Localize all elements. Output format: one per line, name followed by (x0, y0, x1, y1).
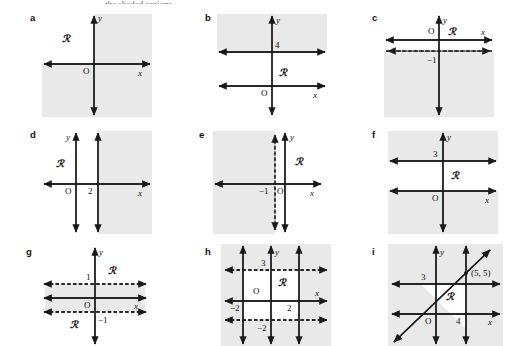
panel-c-stage: y x O −1 ℛ (384, 14, 494, 117)
panel-a-stage: y x O ℛ (42, 14, 152, 117)
panel-i-y-label: y (440, 248, 444, 257)
panel-f-y-label: y (447, 133, 451, 142)
panel-e-stage: y x O −1 ℛ (213, 131, 323, 234)
panel-a-letter: a (30, 12, 35, 23)
panel-f-stage: y x O 3 ℛ (388, 131, 498, 234)
page-root: { "page": { "clipped_header": "the shade… (0, 0, 525, 346)
panel-d-axes (42, 131, 152, 234)
panel-f-origin-label: O (432, 194, 439, 203)
panel-c-y-label: y (443, 16, 447, 25)
panel-c-x-label: x (481, 28, 485, 37)
panel-g-origin-label: O (84, 301, 91, 310)
panel-h-letter: h (205, 246, 211, 257)
panel-f-axes (388, 131, 498, 234)
panel-d: d y x O 2 ℛ (0, 121, 175, 236)
panel-d-x-label: x (138, 189, 142, 198)
panel-i-stage: y x O 3 4 (5, 5) ℛ (388, 244, 503, 346)
panel-f-letter: f (372, 129, 375, 140)
panel-h-tick-neg2-x: −2 (230, 304, 240, 313)
panel-g-axes (40, 246, 150, 346)
panel-g-letter: g (26, 246, 32, 257)
panel-g-stage: y x O 1 −1 ℛ ℛ (40, 246, 150, 346)
panel-a-origin-label: O (83, 67, 90, 76)
panel-c-origin-label: O (428, 27, 435, 36)
panel-e: e y x O −1 ℛ (175, 121, 350, 236)
panel-g-y-label: y (99, 248, 103, 257)
panel-g: g y x O 1 −1 ℛ ℛ (0, 236, 175, 346)
panel-c-letter: c (372, 12, 377, 23)
panel-a-x-label: x (138, 69, 142, 78)
panel-h-stage: y x O 3 −2 2 −2 ℛ (221, 244, 331, 346)
panel-d-y-label: y (66, 133, 70, 142)
panel-a: a y x O ℛ (0, 6, 175, 121)
panel-b-stage: y x O 4 ℛ (217, 14, 327, 117)
panel-a-axes (42, 14, 152, 117)
panel-e-x-label: x (310, 189, 314, 198)
panel-b-origin-label: O (261, 89, 268, 98)
clipped-header-text: the shaded regions. (105, 0, 345, 4)
panel-i-tick-4: 4 (456, 317, 461, 326)
panel-h-tick-2: 2 (287, 304, 292, 313)
panel-d-origin-label: O (65, 187, 72, 196)
panel-c-axes (384, 14, 494, 117)
panel-i-x-label: x (488, 318, 492, 327)
panel-c: c y x O −1 ℛ (350, 6, 525, 121)
panel-c-region-label: ℛ (448, 27, 456, 37)
panel-e-y-label: y (290, 133, 294, 142)
panel-h-origin-label: O (253, 287, 260, 296)
panel-e-letter: e (199, 129, 204, 140)
panel-f-tick-3: 3 (433, 150, 438, 159)
panel-i-letter: i (372, 246, 375, 257)
panel-i-tick-3: 3 (421, 273, 426, 282)
panel-f: f y x O 3 ℛ (350, 121, 525, 236)
panel-i: i y x O 3 4 (5, (350, 236, 525, 346)
panel-f-region-label: ℛ (451, 171, 459, 181)
panel-b-letter: b (205, 12, 211, 23)
panel-i-region-label: ℛ (446, 292, 454, 302)
panel-d-stage: y x O 2 ℛ (42, 131, 152, 234)
panel-h: h y x O 3 −2 2 −2 (175, 236, 350, 346)
panel-h-x-label: x (315, 289, 319, 298)
panel-b-tick-4: 4 (275, 41, 280, 50)
panel-b-y-label: y (276, 16, 280, 25)
panel-d-region-label: ℛ (56, 159, 64, 169)
panel-i-point-label: (5, 5) (471, 269, 491, 278)
panel-b-region-label: ℛ (279, 68, 287, 78)
panel-g-tick-neg1: −1 (98, 316, 108, 325)
panel-b-x-label: x (313, 91, 317, 100)
panel-a-y-label: y (98, 14, 102, 23)
panel-e-origin-label: O (277, 187, 284, 196)
panel-f-x-label: x (485, 196, 489, 205)
panel-e-region-label: ℛ (295, 157, 303, 167)
figure-grid: a y x O ℛ b (0, 6, 525, 346)
panel-d-tick-2: 2 (88, 187, 93, 196)
panel-i-origin-label: O (425, 317, 432, 326)
panel-h-y-label: y (275, 248, 279, 257)
panel-e-tick-neg1: −1 (259, 187, 269, 196)
panel-e-axes (213, 131, 323, 234)
panel-g-region-label-top: ℛ (108, 266, 116, 276)
panel-g-tick-1: 1 (86, 273, 91, 282)
panel-b: b y x O 4 ℛ (175, 6, 350, 121)
panel-d-letter: d (30, 129, 36, 140)
panel-c-tick-neg1: −1 (427, 56, 437, 65)
panel-h-tick-3: 3 (261, 259, 266, 268)
panel-a-region-label: ℛ (62, 34, 70, 44)
panel-h-region-label: ℛ (278, 278, 286, 288)
panel-b-axes (217, 14, 327, 117)
panel-h-tick-neg2-y: −2 (257, 324, 267, 333)
panel-g-x-label: x (134, 302, 138, 311)
panel-g-region-label-bottom: ℛ (70, 320, 78, 330)
